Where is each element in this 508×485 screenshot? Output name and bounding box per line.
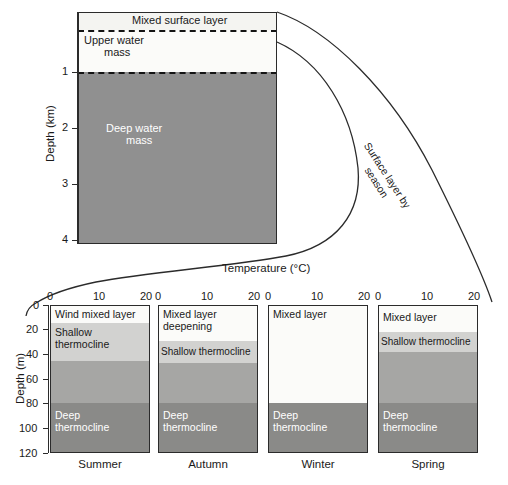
season-panel-winter: Mixed layer Deep thermocline — [268, 305, 368, 453]
spring-xtick-0: 0 — [375, 290, 381, 302]
summer-xtick-10: 10 — [93, 290, 105, 302]
upper-depth-axis-title: Depth (km) — [44, 105, 56, 162]
season-panel-autumn: Mixed layer deepening Shallow thermoclin… — [158, 305, 258, 453]
season-caption-summer: Summer — [50, 458, 150, 470]
winter-label-mixed-layer: Mixed layer — [273, 308, 327, 320]
label-mixed-surface-layer: Mixed surface layer — [132, 14, 227, 26]
lower-tick-label-20: 20 — [26, 323, 38, 335]
season-panel-spring: Mixed layer Shallow thermocline Deep the… — [378, 305, 478, 453]
upper-tick-label-1: 1 — [62, 65, 68, 77]
season-caption-autumn: Autumn — [158, 458, 258, 470]
autumn-label-deep-thermocline: thermocline — [163, 421, 217, 433]
summer-label-shallow: Shallow — [55, 326, 92, 338]
upper-tick-3 — [72, 184, 77, 185]
ocean-thermocline-figure: Mixed surface layer Upper water mass Dee… — [0, 0, 508, 485]
summer-label-deep: Deep — [55, 409, 80, 421]
autumn-label-deep: Deep — [163, 409, 188, 421]
autumn-xtick-10: 10 — [201, 290, 213, 302]
lower-tick-20 — [43, 329, 48, 330]
upper-water-column-panel: Mixed surface layer Upper water mass Dee… — [78, 12, 277, 244]
lower-tick-label-0: 0 — [33, 299, 39, 311]
summer-label-shallow-thermocline: thermocline — [55, 338, 109, 350]
autumn-band-transition — [158, 363, 258, 403]
autumn-xtick-20: 20 — [248, 290, 260, 302]
dashed-divider-top — [78, 30, 277, 32]
lower-tick-100 — [43, 428, 48, 429]
summer-xtick-20: 20 — [140, 290, 152, 302]
lower-tick-label-100: 100 — [19, 422, 37, 434]
season-panel-summer: Wind mixed layer Shallow thermocline Dee… — [50, 305, 150, 453]
spring-label-mixed-layer: Mixed layer — [383, 311, 437, 323]
upper-tick-2 — [72, 128, 77, 129]
upper-tick-label-4: 4 — [62, 233, 68, 245]
lower-tick-label-120: 120 — [19, 447, 37, 459]
winter-xtick-10: 10 — [311, 290, 323, 302]
spring-band-transition — [378, 352, 478, 403]
lower-tick-0 — [43, 305, 48, 306]
temperature-axis-title: Temperature (°C) — [222, 262, 310, 275]
winter-label-deep: Deep — [273, 409, 298, 421]
lower-tick-label-80: 80 — [26, 397, 38, 409]
lower-tick-80 — [43, 403, 48, 404]
upper-tick-4 — [72, 240, 77, 241]
summer-label-wind-mixed-layer: Wind mixed layer — [55, 308, 136, 320]
band-deep-water-mass — [78, 72, 277, 244]
label-deep-water-mass-line2: mass — [126, 134, 152, 146]
autumn-label-shallow-thermocline: Shallow thermocline — [161, 346, 251, 358]
summer-label-deep-thermocline: thermocline — [55, 421, 109, 433]
spring-xtick-20: 20 — [468, 290, 480, 302]
dashed-divider-bottom — [78, 72, 277, 74]
season-caption-winter: Winter — [268, 458, 368, 470]
spring-label-deep: Deep — [383, 409, 408, 421]
lower-tick-60 — [43, 379, 48, 380]
lower-depth-axis-line — [48, 305, 49, 453]
season-caption-spring: Spring — [378, 458, 478, 470]
upper-tick-1 — [72, 72, 77, 73]
label-surface-layer-by-season: Surface layer by season — [351, 140, 413, 217]
label-deep-water-mass-line1: Deep water — [106, 122, 162, 134]
summer-band-transition — [50, 361, 150, 403]
lower-tick-40 — [43, 354, 48, 355]
spring-xtick-10: 10 — [421, 290, 433, 302]
upper-depth-axis-line — [77, 12, 78, 244]
summer-xtick-0: 0 — [47, 290, 53, 302]
lower-tick-label-40: 40 — [26, 348, 38, 360]
winter-xtick-20: 20 — [358, 290, 370, 302]
spring-label-deep-thermocline: thermocline — [383, 421, 437, 433]
spring-label-shallow-thermocline: Shallow thermocline — [381, 336, 471, 348]
autumn-label-deepening: deepening — [163, 320, 212, 332]
label-upper-water-mass-line1: Upper water — [84, 34, 144, 46]
lower-tick-label-60: 60 — [26, 373, 38, 385]
autumn-label-mixed-layer: Mixed layer — [163, 308, 217, 320]
upper-tick-label-3: 3 — [62, 177, 68, 189]
winter-xtick-0: 0 — [265, 290, 271, 302]
surface-layer-curve-outer — [277, 12, 492, 302]
lower-depth-axis-title: Depth (m) — [14, 353, 26, 404]
autumn-xtick-0: 0 — [155, 290, 161, 302]
lower-tick-120 — [43, 453, 48, 454]
label-upper-water-mass-line2: mass — [104, 46, 130, 58]
upper-tick-label-2: 2 — [62, 121, 68, 133]
winter-label-deep-thermocline: thermocline — [273, 421, 327, 433]
